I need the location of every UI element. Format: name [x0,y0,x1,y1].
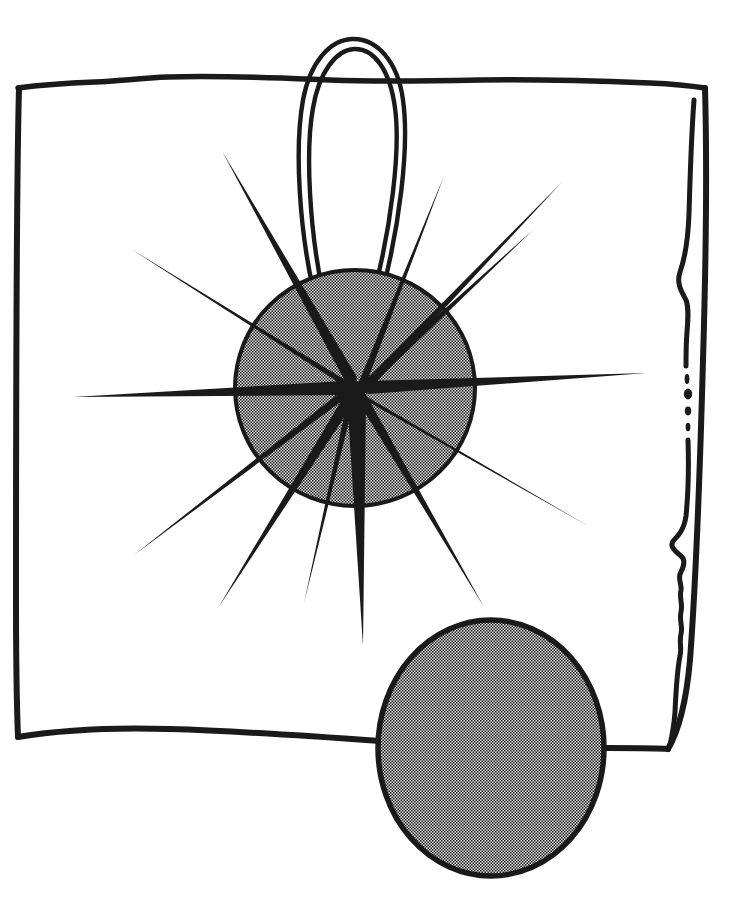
starburst-hub [347,381,363,395]
lower-disc [378,620,604,876]
line-art-illustration [0,0,730,907]
frame-left-edge [16,88,19,737]
illustration-canvas: Ink drawing of a starburst hatpin head w… [0,0,730,907]
